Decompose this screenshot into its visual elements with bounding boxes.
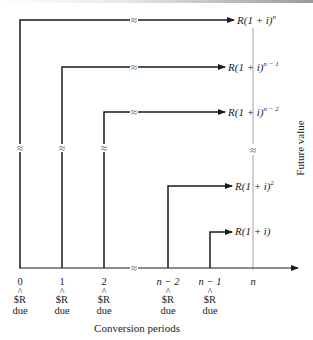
break-icon: ≈ (131, 14, 137, 26)
payment-path-n-minus-1 (210, 232, 232, 268)
tick-1: 1 ^ $R due (47, 277, 77, 317)
break-icon: ≈ (131, 61, 137, 73)
axis-break-icon: ≈ (131, 262, 137, 274)
tick-value: n (238, 277, 268, 287)
future-value-label-n-minus-2: R(1 + i)n − 2 (228, 106, 279, 118)
due-label: due (89, 306, 119, 317)
axis-break-icon: ≈ (250, 144, 256, 156)
future-value-label-n-minus-1: R(1 + i)n − 1 (228, 61, 279, 73)
tick-n-minus-2: n − 2 ^ $R due (148, 277, 188, 317)
break-icon: ≈ (59, 142, 65, 154)
due-label: due (5, 306, 35, 317)
payment-path-1: ≈ ≈ (59, 61, 225, 268)
tick-n-minus-1: n − 1 ^ $R due (190, 277, 230, 317)
tick-n: n (238, 277, 268, 287)
tick-0: 0 ^ $R due (5, 277, 35, 317)
future-value-label-1: R(1 + i) (235, 226, 271, 237)
tick-2: 2 ^ $R due (89, 277, 119, 317)
break-icon: ≈ (131, 106, 137, 118)
due-label: due (148, 306, 188, 317)
payment-path-0: ≈ ≈ (17, 14, 234, 268)
payment-path-n-minus-2 (168, 186, 232, 268)
future-value-label-n: R(1 + i)n (237, 14, 276, 26)
break-icon: ≈ (101, 142, 107, 154)
x-axis: ≈ (19, 262, 298, 274)
y-axis-title: Future value (294, 116, 306, 180)
payment-path-2: ≈ ≈ (101, 106, 225, 268)
future-value-label-2: R(1 + i)2 (235, 180, 274, 192)
due-label: due (47, 306, 77, 317)
break-icon: ≈ (17, 142, 23, 154)
due-label: due (190, 306, 230, 317)
x-axis-title: Conversion periods (87, 322, 187, 334)
